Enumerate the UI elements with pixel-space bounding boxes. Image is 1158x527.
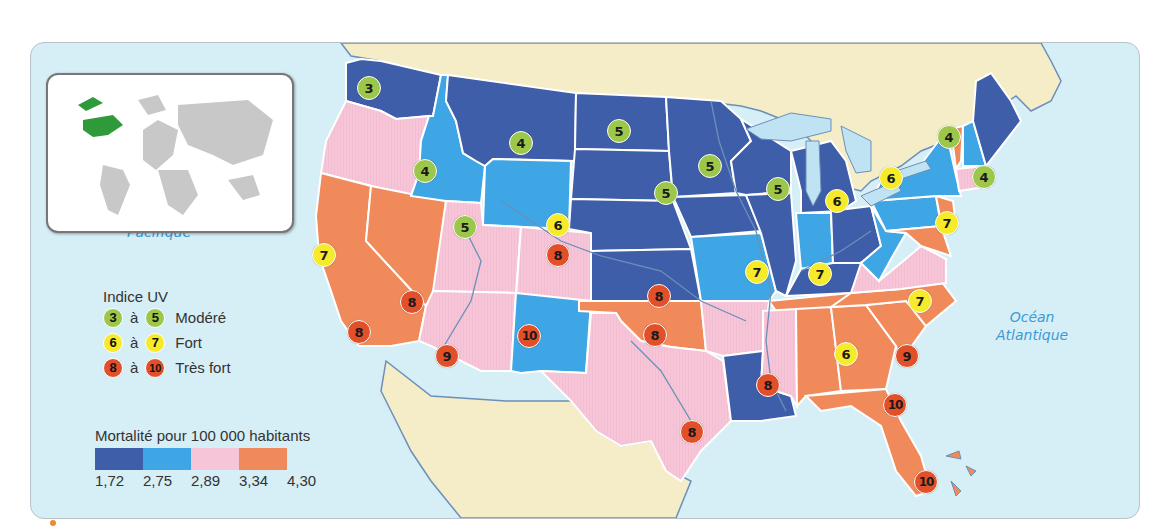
mortality-color-scale (95, 448, 335, 470)
uv-marker-nc: 7 (908, 289, 932, 313)
uv-marker-wa: 3 (357, 76, 381, 100)
uv-marker-ma: 4 (972, 165, 996, 189)
mortality-swatch (95, 448, 143, 470)
uv-marker-mi: 6 (825, 189, 849, 213)
mortality-legend-title: Mortalité pour 100 000 habitants (95, 427, 335, 444)
uv-badge-to: 5 (145, 308, 165, 328)
uv-marker-nm: 10 (517, 324, 541, 348)
mortality-tick: 2,89 (191, 472, 239, 489)
uv-marker-ca-n: 7 (312, 243, 336, 267)
uv-badge-to: 10 (145, 358, 165, 378)
uv-badge-from: 3 (103, 308, 123, 328)
uv-marker-mn: 5 (698, 154, 722, 178)
uv-badge-from: 6 (103, 333, 123, 353)
mortality-swatch (191, 448, 239, 470)
ocean-label-atlantic: Océan Atlantique (996, 308, 1068, 344)
uv-marker-nd: 5 (607, 119, 631, 143)
uv-marker-mo: 7 (745, 260, 769, 284)
uv-separator: à (130, 309, 138, 326)
uv-marker-sd-ia: 5 (654, 181, 678, 205)
uv-legend-row: 6à7Fort (103, 330, 231, 355)
mortality-swatch (143, 448, 191, 470)
uv-marker-ca-s: 8 (347, 320, 371, 344)
mortality-tick-labels: 1,722,752,893,344,30 (95, 472, 335, 489)
source-marker-icon (50, 520, 56, 526)
uv-marker-ut: 5 (453, 215, 477, 239)
uv-marker-ky: 7 (808, 262, 832, 286)
bahamas (946, 451, 976, 496)
uv-marker-fl-n: 10 (883, 393, 907, 417)
world-map-icon (48, 75, 292, 231)
ocean-atlantic-line1: Océan (996, 308, 1068, 326)
uv-marker-wi: 5 (766, 177, 790, 201)
uv-legend-row: 3à5Modéré (103, 305, 231, 330)
uv-marker-mt: 4 (509, 131, 533, 155)
uv-separator: à (130, 359, 138, 376)
mortality-tick: 1,72 (95, 472, 143, 489)
mortality-tick: 4,30 (287, 472, 335, 489)
uv-marker-ks: 8 (647, 284, 671, 308)
uv-class-label: Fort (175, 334, 202, 351)
mortality-tick: 2,75 (143, 472, 191, 489)
mortality-swatch (239, 448, 287, 470)
ocean-atlantic-line2: Atlantique (996, 326, 1068, 344)
uv-marker-co: 8 (546, 243, 570, 267)
uv-marker-fl-s: 10 (914, 470, 938, 494)
uv-marker-vt: 4 (937, 125, 961, 149)
uv-marker-ms: 8 (756, 373, 780, 397)
uv-marker-id: 4 (413, 159, 437, 183)
uv-marker-sc: 9 (895, 344, 919, 368)
uv-class-label: Modéré (175, 309, 226, 326)
map-frame: Océan Pacifique Océan Atlantique Indice … (30, 42, 1140, 519)
uv-marker-az: 9 (435, 344, 459, 368)
uv-marker-nj: 7 (935, 211, 959, 235)
uv-marker-ny: 6 (879, 166, 903, 190)
uv-badge-to: 7 (145, 333, 165, 353)
uv-legend: Indice UV 3à5Modéré6à7Fort8à10Très fort (103, 288, 231, 380)
uv-legend-title: Indice UV (103, 288, 231, 305)
mortality-tick: 3,34 (239, 472, 287, 489)
uv-legend-row: 8à10Très fort (103, 355, 231, 380)
uv-separator: à (130, 334, 138, 351)
uv-class-label: Très fort (175, 359, 230, 376)
uv-marker-nv-ca: 8 (400, 290, 424, 314)
uv-marker-ok: 8 (643, 323, 667, 347)
uv-badge-from: 8 (103, 358, 123, 378)
uv-marker-wy-co: 6 (546, 213, 570, 237)
mortality-legend: Mortalité pour 100 000 habitants 1,722,7… (95, 427, 335, 489)
uv-marker-tx: 8 (680, 420, 704, 444)
uv-marker-ga-al: 6 (834, 342, 858, 366)
world-locator-inset (46, 73, 294, 233)
